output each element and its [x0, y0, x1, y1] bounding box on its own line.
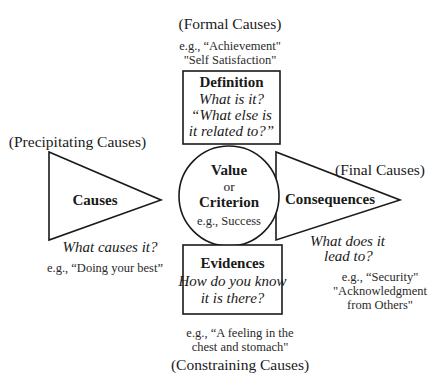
evidences-title: Evidences: [183, 256, 282, 272]
formal-causes-label: (Formal Causes): [160, 16, 300, 32]
constraining-causes-label: (Constraining Causes): [150, 357, 330, 373]
value-label: Value: [179, 163, 279, 179]
precipitating-causes-label: (Precipitating Causes): [0, 134, 155, 150]
consequences-example-3: from Others": [325, 299, 435, 312]
causes-example: e.g., “Doing your best”: [40, 262, 170, 275]
causes-label: Causes: [60, 193, 130, 209]
or-label: or: [179, 180, 279, 194]
consequences-example-1: e.g., “Security": [325, 271, 435, 284]
consequences-question-2: lead to?: [324, 249, 424, 265]
value-example: e.g., Success: [179, 215, 279, 228]
definition-question-2: “What else is: [183, 108, 280, 124]
definition-title: Definition: [183, 75, 280, 91]
consequences-example-2: "Acknowledgment: [325, 285, 435, 298]
definition-question-3: it related to?”: [183, 124, 280, 140]
evidences-example-1: e.g., “A feeling in the: [160, 327, 320, 340]
formal-example-line2: "Self Satisfaction": [160, 54, 300, 67]
formal-example-line1: e.g., “Achievement": [160, 40, 300, 53]
evidences-example-2: chest and stomach": [160, 341, 320, 354]
final-causes-label: (Final Causes): [330, 162, 430, 178]
evidences-question-1: How do you know: [176, 274, 289, 290]
evidences-question-2: it is there?: [183, 291, 282, 307]
causes-question: What causes it?: [50, 240, 170, 256]
consequences-label: Consequences: [280, 192, 380, 208]
criterion-label: Criterion: [179, 195, 279, 211]
definition-question-1: What is it?: [183, 92, 280, 108]
